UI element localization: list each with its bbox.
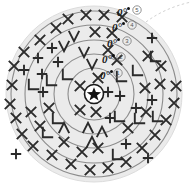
ring-angle-label-4: 0° bbox=[112, 21, 123, 33]
plus-mark bbox=[11, 149, 21, 159]
ring-angle-label-3: 0° bbox=[107, 37, 118, 49]
ring-target-diagram: 0°10°20°30°40°5 bbox=[0, 0, 191, 185]
ring-label-dot-3 bbox=[117, 38, 120, 41]
ring-label-dot-4 bbox=[122, 22, 125, 25]
figure-canvas: 0°10°20°30°40°5 bbox=[0, 0, 191, 185]
ring-angle-label-1: 0° bbox=[100, 69, 111, 81]
center-star-badge bbox=[85, 85, 104, 104]
ring-number-5: 5 bbox=[135, 7, 139, 13]
dashed-guide-arc bbox=[146, 1, 191, 22]
ring-label-dot-2 bbox=[112, 54, 115, 57]
ring-label-dot-5 bbox=[127, 7, 130, 10]
ring-angle-label-2: 0° bbox=[102, 53, 113, 65]
ring-angle-label-5: 0° bbox=[117, 6, 128, 18]
ring-label-dot-1 bbox=[110, 70, 113, 73]
